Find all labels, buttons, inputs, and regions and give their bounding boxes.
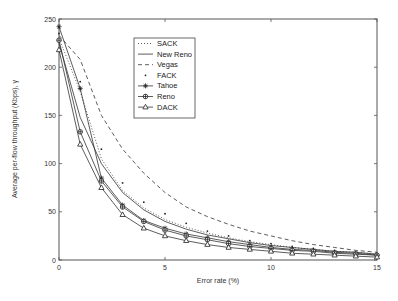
- legend-label: SACK: [157, 39, 177, 48]
- series-vegas: [59, 35, 377, 252]
- y-tick-label: 100: [44, 160, 56, 167]
- x-tick-label: 0: [57, 264, 61, 271]
- y-tick-label: 250: [44, 16, 56, 23]
- series-new-reno: [59, 43, 377, 254]
- y-axis-label: Average per-flow throughput (Kbps), γ: [11, 79, 19, 198]
- x-axis-label: Error rate (%): [197, 277, 239, 285]
- legend: SACKNew RenoVegasFACKTahoeRenoDACK: [134, 38, 195, 118]
- legend-label: Vegas: [157, 60, 178, 69]
- x-tick-label: 10: [267, 264, 275, 271]
- line-chart: 051015050100150200250 Error rate (%) Ave…: [0, 0, 398, 301]
- legend-label: Reno: [157, 92, 175, 101]
- series-tahoe: [57, 24, 380, 257]
- series-dack: [56, 47, 379, 259]
- y-tick-label: 0: [52, 257, 56, 264]
- x-tick-label: 15: [373, 264, 381, 271]
- plot-area: [59, 19, 377, 260]
- series-sack: [59, 38, 377, 254]
- data-series: [56, 24, 379, 259]
- legend-label: New Reno: [157, 50, 192, 59]
- legend-label: Tahoe: [157, 81, 177, 90]
- legend-label: FACK: [157, 71, 177, 80]
- series-fack: [58, 33, 378, 256]
- series-reno: [57, 38, 380, 258]
- axis-ticks: 051015050100150200250: [44, 16, 381, 272]
- y-tick-label: 200: [44, 64, 56, 71]
- y-tick-label: 50: [48, 208, 56, 215]
- x-tick-label: 5: [163, 264, 167, 271]
- legend-label: DACK: [157, 103, 178, 112]
- y-tick-label: 150: [44, 112, 56, 119]
